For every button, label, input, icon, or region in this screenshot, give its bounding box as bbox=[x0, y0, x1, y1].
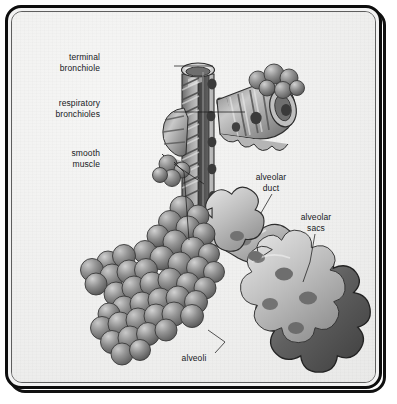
respiratory-bronchiole-right bbox=[217, 64, 305, 151]
label-alveolar-sacs: alveolar sacs bbox=[288, 212, 344, 233]
label-smooth-muscle: smooth muscle bbox=[35, 148, 100, 169]
figure-root: terminal bronchiole respiratory bronchio… bbox=[0, 0, 397, 404]
label-alveolar-duct: alveolar duct bbox=[243, 172, 299, 193]
label-respiratory-bronchioles: respiratory bronchioles bbox=[18, 98, 100, 119]
label-alveoli: alveoli bbox=[170, 353, 218, 364]
leader-alveoli bbox=[208, 330, 225, 353]
alveolar-sac-cluster-right bbox=[240, 230, 370, 372]
figure-canvas: terminal bronchiole respiratory bronchio… bbox=[11, 11, 376, 383]
leader-alveolar-duct bbox=[261, 194, 272, 213]
alveoli-grape-cluster-left bbox=[81, 196, 225, 365]
label-terminal-bronchiole: terminal bronchiole bbox=[28, 52, 100, 73]
